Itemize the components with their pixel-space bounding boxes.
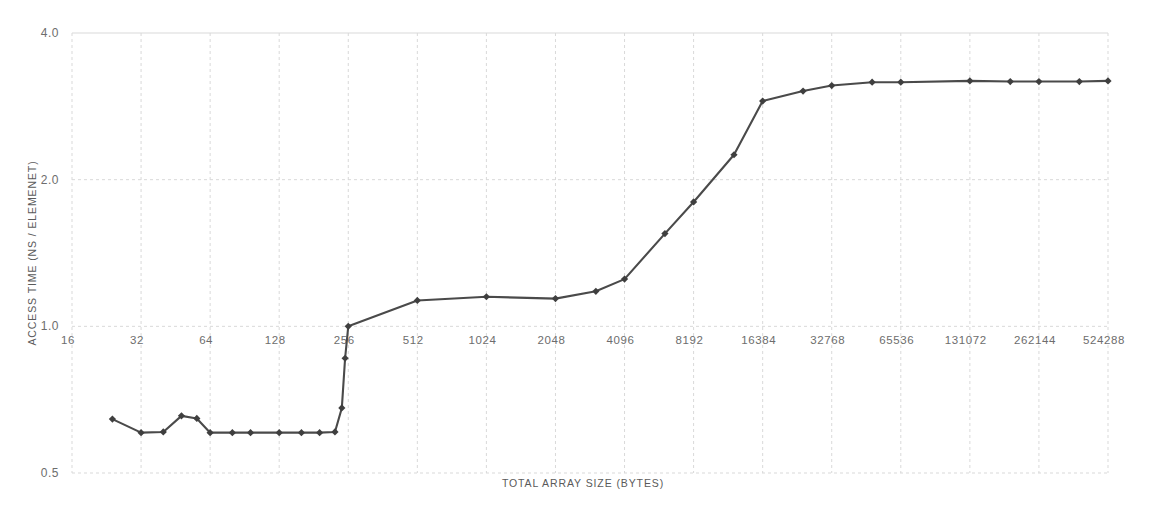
x-tick-label: 128: [265, 334, 286, 346]
x-tick-label: 32768: [810, 334, 845, 346]
chart-container: 1632641282565121024204840968192163843276…: [0, 0, 1155, 513]
access-time-line-chart: 1632641282565121024204840968192163843276…: [0, 0, 1155, 513]
x-tick-label: 16: [61, 334, 75, 346]
x-tick-label: 131072: [945, 334, 987, 346]
y-tick-label: 2.0: [41, 173, 59, 187]
x-tick-label: 262144: [1014, 334, 1056, 346]
x-tick-label: 32: [130, 334, 144, 346]
y-tick-label: 4.0: [41, 26, 59, 40]
x-tick-label: 256: [334, 334, 355, 346]
x-axis-title-group: TOTAL ARRAY SIZE (BYTES): [502, 477, 664, 489]
y-tick-label: 1.0: [41, 319, 59, 333]
x-tick-label: 524288: [1083, 334, 1125, 346]
x-tick-label: 64: [199, 334, 213, 346]
x-tick-label: 8192: [676, 334, 704, 346]
x-tick-label: 512: [403, 334, 424, 346]
y-tick-label: 0.5: [41, 466, 59, 480]
x-tick-label: 1024: [468, 334, 496, 346]
x-tick-label: 65536: [879, 334, 914, 346]
chart-background: [0, 0, 1155, 513]
y-axis-title-group: ACCESS TIME (NS / ELEMENET): [26, 160, 38, 345]
x-axis-title: TOTAL ARRAY SIZE (BYTES): [502, 477, 664, 489]
x-tick-label: 2048: [537, 334, 565, 346]
y-axis-title: ACCESS TIME (NS / ELEMENET): [26, 160, 38, 345]
x-tick-label: 4096: [607, 334, 635, 346]
x-tick-label: 16384: [741, 334, 776, 346]
